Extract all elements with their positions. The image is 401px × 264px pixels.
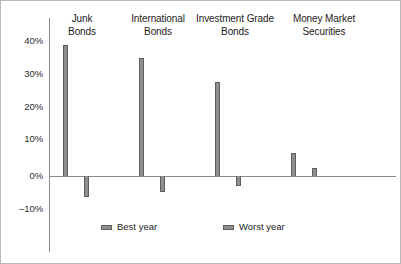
legend-entry-worst-year: Worst year <box>223 221 285 233</box>
bar-junk-bonds-worst-year <box>84 176 89 197</box>
bar-investment-grade-bonds-worst-year <box>236 176 241 186</box>
bar-junk-bonds-best-year <box>63 45 68 176</box>
category-label-investment-grade-bonds: Investment Grade Bonds <box>189 12 281 38</box>
chart-legend: Best year Worst year <box>101 221 361 237</box>
chart-container: 40% 30% 20% 10% 0% –10% Junk Bonds Inter… <box>0 0 401 264</box>
y-axis-tick-40: 40% <box>3 36 43 46</box>
bar-money-market-securities-best-year <box>291 153 296 176</box>
y-axis-tick-10: 10% <box>3 134 43 144</box>
bar-international-bonds-worst-year <box>160 176 165 192</box>
legend-swatch-icon-best-year <box>101 225 112 230</box>
bar-international-bonds-best-year <box>139 58 144 176</box>
category-label-money-market-securities: Money Market Securities <box>279 12 369 38</box>
zero-baseline <box>49 176 396 177</box>
bar-investment-grade-bonds-best-year <box>215 82 220 176</box>
legend-entry-best-year: Best year <box>101 221 157 233</box>
legend-label-worst-year: Worst year <box>239 221 285 233</box>
legend-label-best-year: Best year <box>117 221 157 233</box>
y-axis-tick-20: 20% <box>3 102 43 112</box>
y-axis-tick-0: 0% <box>3 171 43 181</box>
category-label-junk-bonds: Junk Bonds <box>53 12 111 38</box>
y-axis-line <box>49 18 50 252</box>
legend-swatch-icon-worst-year <box>223 225 234 230</box>
y-axis-tick-30: 30% <box>3 69 43 79</box>
y-axis-tick-neg10: –10% <box>3 204 43 214</box>
bar-money-market-securities-worst-year <box>312 168 317 176</box>
